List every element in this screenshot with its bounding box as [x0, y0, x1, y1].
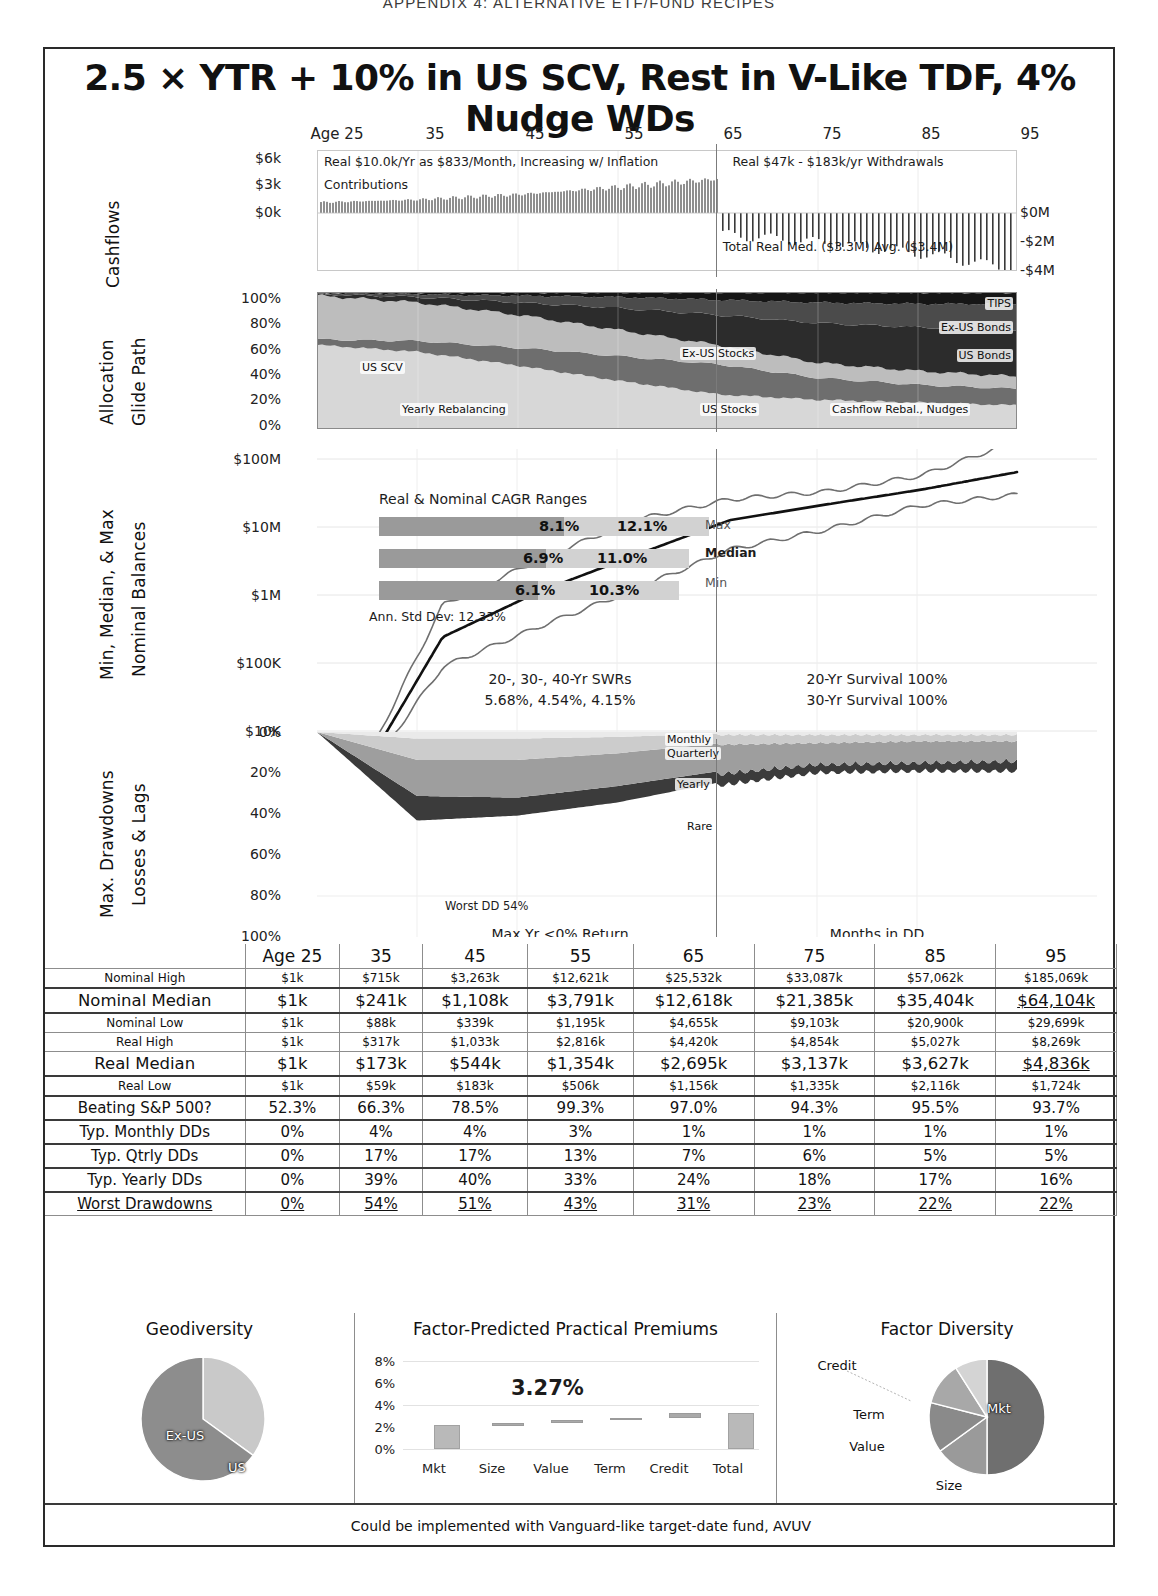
table-cell: $33,087k — [754, 969, 875, 989]
factor-diversity-panel: Factor Diversity Mkt Size Value Term Cre… — [777, 1313, 1117, 1503]
dd-label-rare: Rare — [685, 820, 714, 833]
bottom-panels: Geodiversity Ex-US US Factor-Predicted P… — [45, 1313, 1117, 1503]
premium-bar — [669, 1413, 701, 1418]
drawdown-y-label: 60% — [215, 846, 281, 862]
table-cell: 52.3% — [245, 1096, 340, 1120]
table-cell: $57,062k — [875, 969, 996, 989]
series-label-tips: TIPS — [985, 297, 1013, 310]
table-row: Typ. Yearly DDs0%39%40%33%24%18%17%16% — [45, 1168, 1117, 1192]
table-cell: $4,836k — [996, 1052, 1117, 1077]
drawdown-y-label: 80% — [215, 887, 281, 903]
table-cell: 4% — [422, 1120, 527, 1144]
age-65-marker — [716, 739, 717, 937]
table-col-header: 75 — [754, 944, 875, 969]
cagr-bar-min: 6.1% 10.3% — [379, 581, 679, 600]
table-col-header: 35 — [340, 944, 423, 969]
swr-title: 20-, 30-, 40-Yr SWRs — [488, 671, 631, 689]
premium-y-label: 6% — [361, 1376, 395, 1391]
table-row-label: Real Median — [45, 1052, 245, 1077]
table-cell: 4% — [340, 1120, 423, 1144]
age-tick: 95 — [1020, 125, 1039, 143]
table-cell: 6% — [754, 1144, 875, 1168]
table-cell: 0% — [245, 1192, 340, 1216]
table-cell: $1k — [245, 1013, 340, 1033]
premiums-total-label: 3.27% — [511, 1375, 584, 1401]
table-cell: 17% — [875, 1168, 996, 1192]
drawdown-y-label: 40% — [215, 805, 281, 821]
contrib-note: Contributions — [324, 177, 408, 193]
premium-y-label: 8% — [361, 1354, 395, 1369]
table-cell: 13% — [528, 1144, 633, 1168]
table-cell: $8,269k — [996, 1033, 1117, 1052]
panel-label-allocation: Allocation — [97, 297, 117, 467]
rebalancing-note: Yearly Rebalancing — [400, 403, 508, 416]
table-cell: $241k — [340, 988, 423, 1013]
drawdowns-chart: Monthly Quarterly Yearly Rare Worst DD 5… — [317, 732, 1097, 937]
table-cell: $2,816k — [528, 1033, 633, 1052]
premium-cat-size: Size — [479, 1461, 506, 1476]
table-col-header: 95 — [996, 944, 1117, 969]
cashflows-chart: Real $10.0k/Yr as $833/Month, Increasing… — [317, 150, 1017, 271]
table-cell: $21,385k — [754, 988, 875, 1013]
table-cell: $173k — [340, 1052, 423, 1077]
balances-y-label: $100M — [203, 451, 281, 467]
table-cell: 54% — [340, 1192, 423, 1216]
glidepath-y-label: 80% — [215, 315, 281, 331]
cagr-title: Real & Nominal CAGR Ranges — [379, 491, 587, 509]
table-cell: 3% — [528, 1120, 633, 1144]
table-row: Worst Drawdowns0%54%51%43%31%23%22%22% — [45, 1192, 1117, 1216]
table-row-label: Real High — [45, 1033, 245, 1052]
table-col-header: 45 — [422, 944, 527, 969]
geo-label-exus: Ex-US — [166, 1428, 204, 1443]
glidepath-y-label: 0% — [215, 417, 281, 433]
table-cell: 43% — [528, 1192, 633, 1216]
table-cell: 40% — [422, 1168, 527, 1192]
table-cell: $3,791k — [528, 988, 633, 1013]
series-label-us-stocks: US Stocks — [700, 403, 759, 416]
table-cell: 16% — [996, 1168, 1117, 1192]
age-65-marker — [716, 144, 717, 277]
cagr-nominal-min: 10.3% — [589, 582, 639, 598]
table-cell: $64,104k — [996, 988, 1117, 1013]
premiums-title: Factor-Predicted Practical Premiums — [355, 1319, 776, 1339]
premium-cat-term: Term — [594, 1461, 626, 1476]
table-cell: $506k — [528, 1076, 633, 1096]
premium-y-label: 2% — [361, 1420, 395, 1435]
withdrawals-note: Real $47k - $183k/yr Withdrawals — [732, 154, 943, 170]
table-col-header: 65 — [633, 944, 754, 969]
series-label-exus-stocks: Ex-US Stocks — [680, 347, 756, 360]
months-in-dd-title: Months in DD — [830, 926, 924, 937]
table-cell: $1,156k — [633, 1076, 754, 1096]
table-cell: 17% — [422, 1144, 527, 1168]
worst-dd-note: Worst DD 54% — [445, 899, 529, 913]
table-cell: 1% — [754, 1120, 875, 1144]
panel-label-losses-lags: Losses & Lags — [129, 755, 149, 935]
table-cell: $88k — [340, 1013, 423, 1033]
factor-label-size: Size — [936, 1478, 963, 1493]
table-cell: 1% — [633, 1120, 754, 1144]
table-cell: $9,103k — [754, 1013, 875, 1033]
cashflow-y-label-right: -$2M — [1020, 233, 1080, 249]
page-header: APPENDIX 4: ALTERNATIVE ETF/FUND RECIPES — [0, 0, 1158, 11]
table-cell: $20,900k — [875, 1013, 996, 1033]
table-row-label: Beating S&P 500? — [45, 1096, 245, 1120]
table-cell: 17% — [340, 1144, 423, 1168]
table-cell: 18% — [754, 1168, 875, 1192]
age-tick: 45 — [525, 125, 544, 143]
table-cell: $3,627k — [875, 1052, 996, 1077]
table-cell: 66.3% — [340, 1096, 423, 1120]
credit-leader-line — [845, 1367, 915, 1407]
summary-table: Age 2535455565758595Nominal High$1k$715k… — [45, 944, 1117, 1216]
series-label-us-bonds: US Bonds — [957, 349, 1014, 362]
age-tick: 75 — [822, 125, 841, 143]
table-cell: 0% — [245, 1120, 340, 1144]
table-row: Typ. Monthly DDs0%4%4%3%1%1%1%1% — [45, 1120, 1117, 1144]
table-row: Typ. Qtrly DDs0%17%17%13%7%6%5%5% — [45, 1144, 1117, 1168]
cagr-real-median: 6.9% — [523, 550, 563, 566]
balances-chart: Real & Nominal CAGR Ranges 8.1% 12.1% 6.… — [317, 449, 1097, 739]
premium-bar — [434, 1425, 460, 1449]
table-cell: 97.0% — [633, 1096, 754, 1120]
table-cell: $2,695k — [633, 1052, 754, 1077]
premium-cat-total: Total — [713, 1461, 743, 1476]
recipe-sheet: 2.5 × YTR + 10% in US SCV, Rest in V-Lik… — [43, 47, 1115, 1547]
